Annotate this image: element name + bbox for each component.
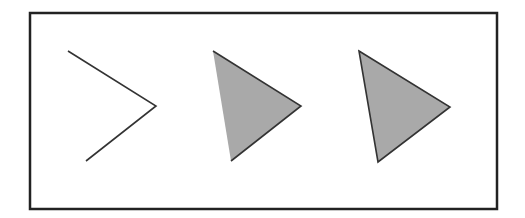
diagram-canvas — [0, 0, 525, 218]
